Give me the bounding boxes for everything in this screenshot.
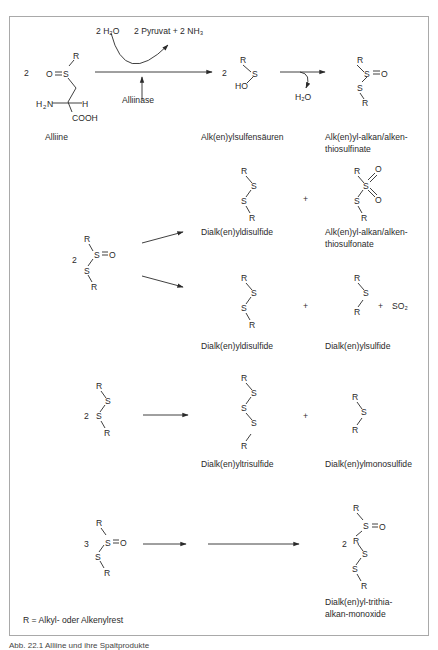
legend-note: R = Alkyl- oder Alkenylrest — [23, 614, 123, 626]
coef: 2 — [84, 410, 89, 422]
svg-text:S: S — [94, 250, 100, 260]
svg-text:R: R — [241, 166, 247, 176]
enzyme-label: Alliinase — [122, 94, 154, 106]
svg-text:S: S — [241, 196, 247, 206]
svg-text:R: R — [362, 98, 368, 108]
figure-caption: Abb. 22.1 Alliine und ihre Spaltprodukte — [9, 641, 149, 650]
svg-text:O: O — [46, 69, 53, 79]
svg-text:R: R — [353, 503, 359, 513]
plus: + — [303, 300, 308, 312]
svg-text:S: S — [95, 552, 101, 562]
svg-text:R: R — [352, 392, 358, 402]
svg-text:S: S — [251, 181, 257, 191]
svg-text:R: R — [241, 273, 247, 283]
svg-text:2: 2 — [24, 68, 29, 78]
label-alliine: Alliine — [45, 131, 68, 143]
svg-text:R: R — [104, 568, 110, 578]
svg-text:R: R — [352, 425, 358, 435]
label-trisulfide: Dialk(en)yltrisulfide — [201, 458, 274, 470]
svg-text:S: S — [252, 69, 258, 79]
svg-text:R: R — [96, 518, 102, 528]
svg-text:S: S — [251, 388, 257, 398]
svg-text:S: S — [105, 396, 111, 406]
reagents-in: 2 H₂O — [96, 25, 119, 37]
svg-text:N: N — [47, 99, 53, 109]
svg-text:R: R — [240, 55, 246, 65]
label-thiosulfinates-1: Alk(en)yl-alkan/alken- — [325, 131, 408, 143]
coef: 2 — [222, 67, 227, 79]
svg-text:R: R — [354, 166, 360, 176]
svg-text:R: R — [91, 282, 97, 292]
svg-text:O: O — [120, 538, 127, 548]
svg-text:S: S — [363, 521, 369, 531]
svg-text:R: R — [104, 428, 110, 438]
so2: SO₂ — [392, 300, 408, 312]
arrow-curved — [111, 33, 168, 64]
svg-text:H: H — [82, 99, 88, 109]
label-thiosulfonate-1: Alk(en)yl-alkan/alken- — [325, 226, 408, 238]
svg-text:S: S — [364, 69, 370, 79]
svg-text:HO: HO — [235, 81, 248, 91]
svg-text:R: R — [354, 273, 360, 283]
svg-text:R: R — [249, 213, 255, 223]
svg-text:S: S — [251, 418, 257, 428]
plus: + — [378, 300, 383, 312]
label-thiosulfonate-2: thiosulfonate — [325, 238, 374, 250]
svg-text:R: R — [241, 441, 247, 451]
reagents-out: 2 Pyruvat + 2 NH₃ — [134, 25, 203, 37]
svg-text:R: R — [361, 213, 367, 223]
svg-text:R: R — [357, 55, 363, 65]
svg-text:R: R — [361, 581, 367, 591]
svg-text:S: S — [354, 196, 360, 206]
coef: 3 — [84, 538, 89, 550]
svg-text:COOH: COOH — [72, 113, 98, 123]
svg-text:O: O — [379, 522, 386, 532]
svg-text:S: S — [361, 407, 367, 417]
label-monosulfide-b: Dialk(en)ylsulfide — [325, 340, 390, 352]
label-product-1: Dialk(en)yl-trithia- — [325, 596, 392, 608]
label-disulfide-b: Dialk(en)yldisulfide — [201, 340, 273, 352]
plus: + — [303, 193, 308, 205]
coef: 2 — [342, 538, 347, 550]
svg-text:R: R — [73, 51, 79, 61]
label-disulfide-a: Dialk(en)yldisulfide — [201, 226, 273, 238]
plus: + — [303, 410, 308, 422]
svg-text:R: R — [241, 373, 247, 383]
svg-text:S: S — [105, 538, 111, 548]
svg-text:R: R — [84, 234, 90, 244]
label-thiosulfinates-2: thiosulfinate — [325, 143, 371, 155]
alliine-structure — [52, 60, 82, 112]
reaction-scheme: 2 OSR H2N HCOOH RSHO RSO SR RSO SR RSSR … — [0, 0, 438, 650]
svg-text:S: S — [241, 403, 247, 413]
svg-text:S: S — [241, 303, 247, 313]
svg-text:S: S — [357, 83, 363, 93]
svg-text:S: S — [362, 549, 368, 559]
svg-text:R: R — [249, 320, 255, 330]
svg-text:S: S — [352, 564, 358, 574]
svg-text:O: O — [375, 195, 382, 205]
label-sulfenic-acids: Alk(en)ylsulfensäuren — [201, 131, 284, 143]
svg-text:S: S — [251, 288, 257, 298]
coef: 2 — [72, 254, 77, 266]
svg-text:S: S — [363, 181, 369, 191]
svg-text:S: S — [63, 69, 69, 79]
svg-text:H: H — [36, 99, 42, 109]
svg-text:O: O — [375, 164, 382, 174]
svg-text:R: R — [353, 536, 359, 546]
label-product-2: alkan-monoxide — [325, 608, 386, 620]
svg-text:R: R — [96, 381, 102, 391]
svg-text:S: S — [96, 411, 102, 421]
svg-text:O: O — [109, 250, 116, 260]
svg-text:R: R — [354, 307, 360, 317]
label-monosulfide: Dialk(en)ylmonosulfide — [325, 458, 412, 470]
byproduct-water: H₂O — [295, 91, 311, 103]
svg-text:O: O — [381, 69, 388, 79]
svg-text:S: S — [84, 266, 90, 276]
svg-text:S: S — [363, 288, 369, 298]
